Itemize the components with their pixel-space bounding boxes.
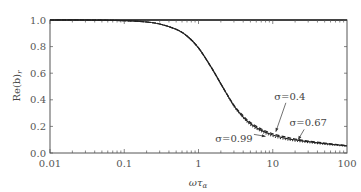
x-axis-title: ωτα xyxy=(189,177,208,190)
x-tick-label: 100 xyxy=(337,158,356,169)
annotations: σ=0.4σ=0.67σ=0.99 xyxy=(215,91,327,145)
y-tick-label: 0.0 xyxy=(30,148,46,159)
x-tick-label: 1 xyxy=(195,158,201,169)
tick-labels: 0.010.11101000.00.20.40.60.81.0 xyxy=(30,15,356,170)
y-tick-label: 0.2 xyxy=(30,121,46,132)
y-tick-label: 0.6 xyxy=(30,68,46,79)
y-axis-title: Re(b)r xyxy=(11,70,24,102)
annotation-label: σ=0.67 xyxy=(289,117,326,128)
x-tick-label: 0.1 xyxy=(116,158,132,169)
annotation-label: σ=0.4 xyxy=(274,91,305,102)
y-tick-label: 1.0 xyxy=(30,15,46,26)
annotation-label: σ=0.99 xyxy=(215,133,252,144)
chart: 0.010.11101000.00.20.40.60.81.0 σ=0.4σ=0… xyxy=(0,0,361,192)
x-tick-label: 0.01 xyxy=(39,158,61,169)
y-tick-label: 0.8 xyxy=(30,41,46,52)
x-tick-label: 10 xyxy=(266,158,279,169)
y-tick-label: 0.4 xyxy=(30,94,46,105)
